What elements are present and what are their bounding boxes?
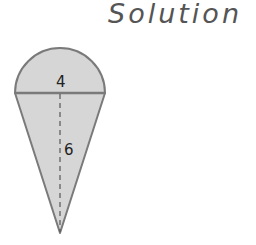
- diameter-label: 4: [56, 73, 66, 91]
- height-label: 6: [64, 141, 74, 159]
- cone-figure: 4 6: [0, 0, 256, 245]
